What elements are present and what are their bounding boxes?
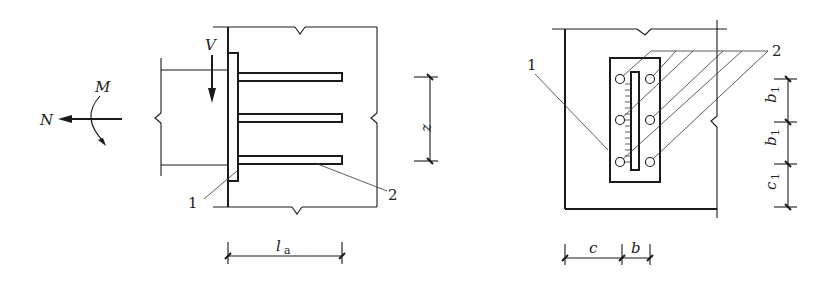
row-spacing-2-label: b 1 (762, 129, 782, 146)
callout-1-label: 1 (188, 194, 198, 212)
svg-text:1: 1 (769, 129, 782, 136)
axial-label: N (39, 111, 54, 129)
anchorage-length-subscript: a (284, 244, 291, 257)
axial-force-arrow (58, 115, 122, 123)
embedded-plate (228, 53, 238, 181)
anchor-holes (616, 75, 655, 167)
svg-text:b: b (762, 136, 780, 146)
stiffener-bar (631, 72, 639, 170)
lever-arm-label: z (419, 123, 437, 132)
left-view: V N M 1 2 l a (39, 27, 438, 264)
callout-leader (204, 171, 237, 199)
callout-1-label: 1 (527, 56, 537, 74)
anchorage-length-symbol: l (276, 237, 281, 255)
right-view: 2 1 c b b 1 (527, 20, 797, 265)
bar-spacing-horizontal-label: b (631, 239, 641, 257)
steel-beam-stub (155, 58, 228, 176)
anchor-bar (238, 114, 342, 122)
anchor-bar (238, 156, 342, 164)
anchor-bar (238, 73, 342, 81)
moment-label: M (94, 78, 111, 96)
svg-text:c: c (762, 181, 780, 190)
edge-horizontal-label: c (589, 239, 598, 257)
callout-2-label: 2 (772, 42, 782, 60)
lever-arm-dimension (414, 74, 438, 164)
callout-leader (315, 163, 387, 191)
svg-text:b: b (762, 93, 780, 103)
moment-arrow (91, 96, 106, 146)
shear-label: V (205, 36, 218, 54)
callout-2-leaders (623, 51, 768, 159)
callout-leader (535, 74, 608, 150)
edge-vertical-label: c 1 (762, 173, 782, 190)
callout-2-label: 2 (388, 186, 398, 204)
svg-text:1: 1 (769, 173, 782, 180)
svg-text:1: 1 (769, 86, 782, 93)
embedded-plate (610, 58, 660, 182)
anchor-bars (238, 73, 342, 164)
shear-force-arrow (208, 55, 216, 103)
row-spacing-1-label: b 1 (762, 86, 782, 103)
anchorage-diagram: V N M 1 2 l a (0, 0, 835, 291)
